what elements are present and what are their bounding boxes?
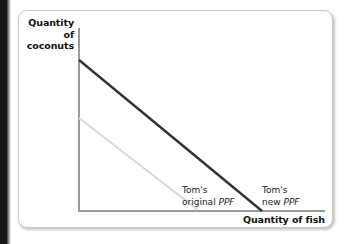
annotation-original-line2-prefix: original bbox=[182, 197, 216, 207]
annotation-new-ppf-abbr: PPF bbox=[283, 197, 299, 207]
figure-root: Quantity of coconuts Quantity of fish To… bbox=[0, 0, 350, 244]
ppf-line-original bbox=[79, 118, 198, 210]
y-axis-label: Quantity of coconuts bbox=[26, 17, 74, 52]
x-axis-label: Quantity of fish bbox=[225, 214, 325, 226]
annotation-original-ppf-abbr: PPF bbox=[219, 197, 235, 207]
y-axis-label-line1: Quantity bbox=[28, 17, 74, 28]
annotation-original-line1: Tom's bbox=[182, 185, 207, 195]
annotation-new-line2-prefix: new bbox=[262, 197, 281, 207]
y-axis-label-line2: of coconuts bbox=[27, 29, 74, 52]
plot-area: Quantity of coconuts Quantity of fish To… bbox=[0, 0, 350, 244]
annotation-original-ppf: Tom's original PPF bbox=[182, 185, 235, 208]
annotation-new-line1: Tom's bbox=[262, 185, 287, 195]
annotation-new-ppf: Tom's new PPF bbox=[262, 185, 300, 208]
